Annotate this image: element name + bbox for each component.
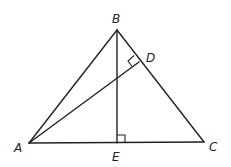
label-e: E <box>112 150 120 164</box>
altitude-ad <box>29 62 139 143</box>
label-d: D <box>146 51 155 65</box>
triangle-diagram: B D A E C <box>0 0 231 167</box>
label-c: C <box>209 140 218 154</box>
label-a: A <box>13 141 22 155</box>
label-b: B <box>112 12 120 26</box>
segment-ab <box>29 30 117 143</box>
right-angle-marker-d <box>128 56 134 68</box>
segment-bc <box>117 30 204 142</box>
